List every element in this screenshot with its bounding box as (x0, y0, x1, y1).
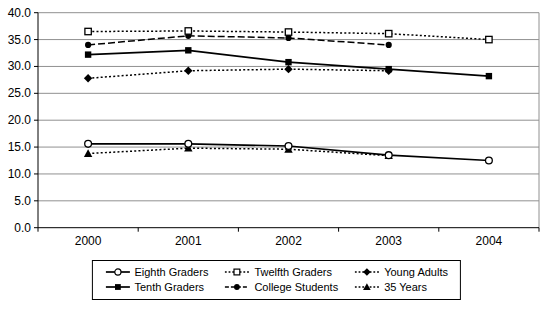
legend-item-young-adults: Young Adults (354, 266, 448, 278)
marker-eighth-graders (185, 140, 192, 147)
marker-twelfth-graders (386, 30, 392, 36)
series-line-35-years (88, 148, 389, 156)
marker-young-adults (184, 67, 192, 75)
marker-eighth-graders (385, 152, 392, 159)
legend-label: Young Adults (384, 266, 448, 278)
legend-item-college-students: College Students (224, 281, 338, 293)
marker-tenth-graders (285, 59, 291, 65)
filled-triangle-legend-icon (354, 281, 380, 293)
marker-tenth-graders (486, 73, 492, 79)
legend-label: Twelfth Graders (254, 266, 332, 278)
series-line-young-adults (88, 69, 389, 78)
y-axis-label: 25.0 (8, 86, 32, 100)
marker-tenth-graders (386, 66, 392, 72)
marker-young-adults (84, 74, 92, 82)
marker-tenth-graders (85, 51, 91, 57)
legend-label: College Students (254, 281, 338, 293)
y-axis-label: 0.0 (14, 221, 31, 235)
open-circle-legend-icon (104, 266, 130, 278)
marker-35-years (84, 149, 92, 157)
filled-circle-legend-icon (224, 281, 250, 293)
filled-square-legend-icon (104, 281, 130, 293)
legend: Eighth GradersTwelfth GradersYoung Adult… (91, 260, 461, 300)
y-axis-label: 30.0 (8, 59, 32, 73)
open-circle-icon (114, 269, 120, 275)
marker-twelfth-graders (486, 36, 492, 42)
y-axis-label: 40.0 (8, 6, 32, 20)
x-axis-label: 2000 (75, 234, 102, 248)
chart-figure: 0.05.010.015.020.025.030.035.040.0200020… (0, 0, 545, 312)
marker-college-students (386, 42, 392, 48)
marker-tenth-graders (185, 47, 191, 53)
filled-square-icon (114, 284, 120, 290)
filled-diamond-legend-icon (354, 266, 380, 278)
legend-label: Eighth Graders (134, 266, 208, 278)
legend-item-35-years: 35 Years (354, 281, 448, 293)
y-axis-label: 35.0 (8, 33, 32, 47)
y-axis-label: 5.0 (14, 194, 31, 208)
y-axis-label: 20.0 (8, 113, 32, 127)
filled-circle-icon (234, 284, 240, 290)
marker-twelfth-graders (85, 28, 91, 34)
legend-item-tenth-graders: Tenth Graders (104, 281, 208, 293)
y-axis-label: 10.0 (8, 167, 32, 181)
series-line-college-students (88, 36, 389, 45)
x-axis-label: 2001 (175, 234, 202, 248)
legend-label: Tenth Graders (134, 281, 204, 293)
marker-eighth-graders (285, 143, 292, 150)
filled-triangle-icon (363, 283, 371, 290)
marker-eighth-graders (486, 157, 493, 164)
legend-label: 35 Years (384, 281, 427, 293)
marker-twelfth-graders (285, 29, 291, 35)
legend-item-eighth-graders: Eighth Graders (104, 266, 208, 278)
y-axis-label: 15.0 (8, 140, 32, 154)
marker-twelfth-graders (185, 28, 191, 34)
x-axis-label: 2004 (476, 234, 503, 248)
legend-item-twelfth-graders: Twelfth Graders (224, 266, 338, 278)
marker-eighth-graders (85, 140, 92, 147)
open-square-legend-icon (224, 266, 250, 278)
open-square-icon (234, 269, 240, 275)
filled-diamond-icon (363, 268, 371, 276)
x-axis-label: 2003 (375, 234, 402, 248)
x-axis-label: 2002 (275, 234, 302, 248)
marker-college-students (85, 42, 91, 48)
line-chart: 0.05.010.015.020.025.030.035.040.0200020… (0, 0, 545, 258)
